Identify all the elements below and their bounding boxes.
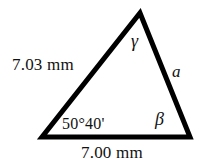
angle-label-beta: β (155, 110, 164, 128)
side-length-label-left: 7.03 mm (12, 56, 74, 73)
angle-measure-label-bottom-left: 50°40' (62, 116, 104, 132)
triangle-figure: 7.03 mm 7.00 mm a 50°40' γ β (0, 0, 208, 168)
side-length-label-bottom: 7.00 mm (81, 144, 143, 161)
side-variable-label-a: a (172, 63, 181, 80)
angle-label-gamma: γ (131, 32, 138, 50)
